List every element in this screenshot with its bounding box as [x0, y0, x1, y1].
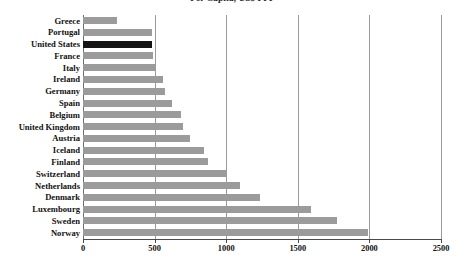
x-tick-label-0: 0 [63, 244, 103, 253]
bar-denmark [83, 194, 260, 201]
bar-iceland [83, 147, 204, 154]
category-label-iceland: Iceland [0, 145, 80, 155]
bar-greece [83, 17, 117, 24]
category-label-germany: Germany [0, 86, 80, 96]
bar-spain [83, 100, 172, 107]
category-label-ireland: Ireland [0, 74, 80, 84]
category-label-norway: Norway [0, 228, 80, 238]
plot-area [83, 15, 441, 239]
x-tick-0 [83, 239, 84, 243]
bar-france [83, 52, 153, 59]
x-tick-1500 [298, 239, 299, 243]
category-label-denmark: Denmark [0, 192, 80, 202]
bar-luxembourg [83, 206, 311, 213]
category-label-united-states: United States [0, 39, 80, 49]
x-tick-label-2000: 2000 [349, 244, 389, 253]
x-tick-label-2500: 2500 [421, 244, 461, 253]
x-tick-500 [155, 239, 156, 243]
bar-norway [83, 229, 368, 236]
category-label-united-kingdom: United Kingdom [0, 122, 80, 132]
category-label-finland: Finland [0, 157, 80, 167]
x-tick-label-1000: 1000 [206, 244, 246, 253]
bar-netherlands [83, 182, 240, 189]
bar-chart: Per Capita, US$ PPP 05001000150020002500… [0, 0, 465, 260]
x-axis-line [83, 239, 441, 240]
bar-united-kingdom [83, 123, 183, 130]
bar-italy [83, 64, 156, 71]
chart-title-line-1: Per Capita, US$ PPP [0, 0, 465, 4]
x-tick-2000 [369, 239, 370, 243]
category-label-austria: Austria [0, 133, 80, 143]
category-label-italy: Italy [0, 63, 80, 73]
bar-austria [83, 135, 190, 142]
category-label-sweden: Sweden [0, 216, 80, 226]
bar-portugal [83, 29, 152, 36]
category-label-belgium: Belgium [0, 110, 80, 120]
bar-germany [83, 88, 165, 95]
bar-finland [83, 158, 208, 165]
chart-title: Per Capita, US$ PPP [0, 0, 465, 4]
category-label-luxembourg: Luxembourg [0, 204, 80, 214]
category-label-switzerland: Switzerland [0, 169, 80, 179]
x-tick-2500 [441, 239, 442, 243]
bar-sweden [83, 217, 337, 224]
x-tick-label-500: 500 [135, 244, 175, 253]
category-label-greece: Greece [0, 16, 80, 26]
category-label-netherlands: Netherlands [0, 181, 80, 191]
bar-belgium [83, 111, 181, 118]
x-tick-1000 [226, 239, 227, 243]
bar-switzerland [83, 170, 227, 177]
x-tick-label-1500: 1500 [278, 244, 318, 253]
category-label-france: France [0, 51, 80, 61]
bar-ireland [83, 76, 163, 83]
category-label-portugal: Portugal [0, 27, 80, 37]
gridline-2500 [441, 15, 442, 239]
category-label-spain: Spain [0, 98, 80, 108]
bar-united-states [83, 41, 152, 48]
